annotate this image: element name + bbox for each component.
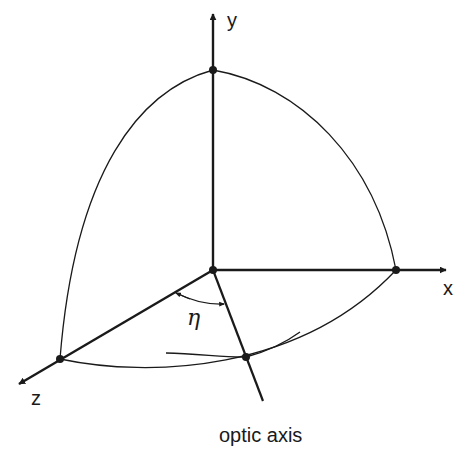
optic-axis-circle-arc <box>166 332 300 357</box>
optic-axis-line <box>213 270 263 401</box>
optic-axis-diagram: y x z η optic axis <box>0 0 472 455</box>
x-intercept-point <box>392 266 400 274</box>
y-axis-label: y <box>227 9 237 31</box>
xz-plane-arc <box>60 270 396 368</box>
x-axis-label: x <box>443 277 453 299</box>
optic-axis-intercept-point <box>242 353 250 361</box>
origin-point <box>209 266 217 274</box>
z-intercept-point <box>56 355 64 363</box>
eta-angle-label: η <box>187 305 200 330</box>
eta-angle-arc <box>176 293 224 304</box>
optic-axis-label: optic axis <box>219 424 302 446</box>
y-intercept-point <box>209 66 217 74</box>
xy-plane-arc <box>213 70 396 270</box>
eta-angle-arc-start <box>176 293 190 299</box>
z-axis-label: z <box>31 387 41 409</box>
